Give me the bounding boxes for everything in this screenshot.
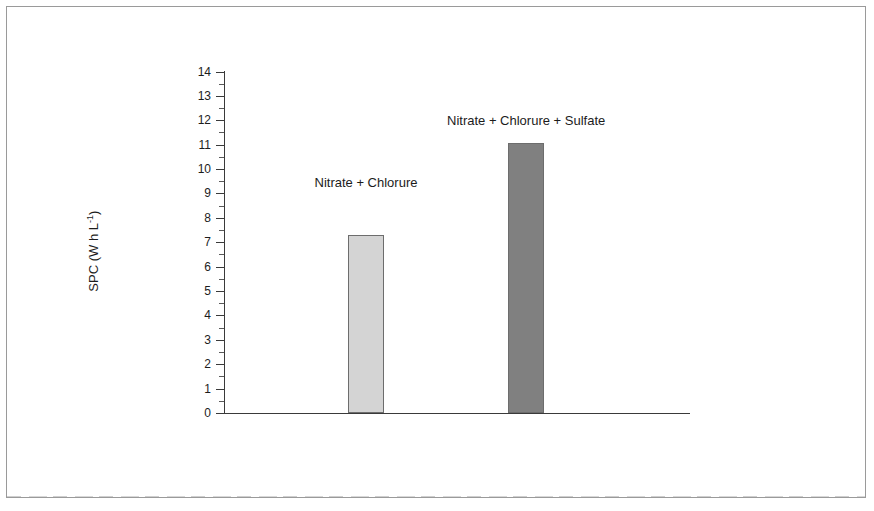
y-tick-major (216, 96, 224, 97)
y-axis-title-superscript: -1 (85, 215, 95, 223)
y-tick-major (216, 389, 224, 390)
bar (508, 143, 544, 413)
y-tick-minor (219, 108, 224, 109)
y-tick-minor (219, 254, 224, 255)
y-tick-label: 4 (181, 309, 211, 321)
y-tick-label: 13 (181, 90, 211, 102)
y-tick-label: 6 (181, 261, 211, 273)
y-tick-label: 3 (181, 334, 211, 346)
bar-label: Nitrate + Chlorure + Sulfate (447, 113, 605, 128)
y-tick-major (216, 72, 224, 73)
y-tick-major (216, 242, 224, 243)
y-tick-label: 1 (181, 383, 211, 395)
y-tick-minor (219, 157, 224, 158)
y-tick-label: 11 (181, 139, 211, 151)
y-tick-minor (219, 303, 224, 304)
y-axis-line (224, 71, 225, 414)
y-tick-label: 9 (181, 187, 211, 199)
bar-chart: SPC (W h L-1) 01234567891011121314 Nitra… (0, 0, 874, 511)
y-axis-title: SPC (W h L-1) (85, 141, 101, 361)
y-tick-label: 10 (181, 163, 211, 175)
y-tick-label: 7 (181, 236, 211, 248)
y-tick-major (216, 267, 224, 268)
y-tick-major (216, 315, 224, 316)
y-tick-major (216, 145, 224, 146)
y-tick-minor (219, 328, 224, 329)
y-tick-major (216, 218, 224, 219)
y-tick-minor (219, 401, 224, 402)
y-tick-label: 2 (181, 358, 211, 370)
y-tick-major (216, 340, 224, 341)
y-tick-label: 8 (181, 212, 211, 224)
y-tick-major (216, 169, 224, 170)
y-tick-label: 12 (181, 114, 211, 126)
y-tick-minor (219, 230, 224, 231)
y-tick-label: 14 (181, 66, 211, 78)
y-tick-minor (219, 352, 224, 353)
y-tick-minor (219, 84, 224, 85)
y-axis-title-suffix: ) (86, 211, 101, 215)
y-tick-major (216, 193, 224, 194)
bar-label: Nitrate + Chlorure (315, 175, 418, 190)
y-tick-major (216, 364, 224, 365)
y-tick-minor (219, 279, 224, 280)
y-tick-minor (219, 181, 224, 182)
bar (348, 235, 384, 413)
x-axis-line (224, 413, 690, 414)
y-tick-major (216, 120, 224, 121)
y-tick-major (216, 291, 224, 292)
y-axis-title-prefix: SPC (W h L (86, 223, 101, 292)
y-tick-label: 5 (181, 285, 211, 297)
y-tick-minor (219, 132, 224, 133)
y-tick-minor (219, 376, 224, 377)
y-tick-major (216, 413, 224, 414)
y-tick-label: 0 (181, 407, 211, 419)
y-tick-minor (219, 206, 224, 207)
